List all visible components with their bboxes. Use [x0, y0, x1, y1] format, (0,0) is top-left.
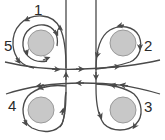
- circle-top-left: [28, 30, 54, 56]
- label-1: 1: [34, 2, 42, 17]
- flow-upper-horizontal: [5, 60, 160, 69]
- circle-bottom-right: [110, 97, 136, 123]
- label-4: 4: [8, 98, 16, 113]
- flow-diagram: 1 2 3 4 5: [0, 0, 165, 140]
- label-2: 2: [144, 38, 152, 53]
- circle-bottom-left: [28, 97, 54, 123]
- flow-lower-horizontal: [6, 83, 160, 94]
- label-5: 5: [4, 38, 12, 53]
- diagram-canvas: [0, 0, 165, 140]
- circle-top-right: [110, 30, 136, 56]
- label-3: 3: [144, 99, 152, 114]
- flow-right-vertical: [96, 0, 104, 124]
